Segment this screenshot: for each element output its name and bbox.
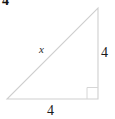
triangle-graphic [0,0,115,119]
hypotenuse-label: x [39,44,44,55]
right-triangle-figure: x 4 4 4 [0,0,115,119]
right-angle-marker-icon [87,88,98,100]
vertical-leg-label: 4 [101,46,108,60]
triangle-outline [7,8,98,99]
horizontal-leg-label: 4 [47,104,54,118]
clipped-top-left-label: 4 [2,0,9,8]
